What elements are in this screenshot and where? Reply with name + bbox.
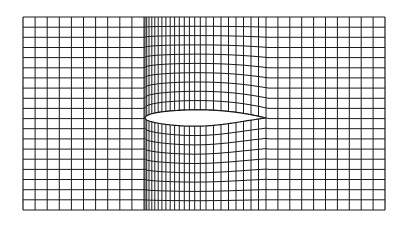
airfoil-outline — [145, 110, 266, 126]
mesh-row-line — [23, 149, 385, 155]
mesh-row-line — [23, 82, 385, 88]
mesh-row-line — [23, 101, 385, 109]
mesh-row-line — [23, 169, 385, 173]
mesh-row-line — [23, 54, 385, 58]
mesh-row-line — [23, 128, 385, 135]
mesh-row-line — [23, 73, 385, 78]
mesh-row-line — [23, 26, 385, 27]
mesh-row-line — [23, 179, 385, 182]
mesh-row-line — [23, 91, 385, 98]
mesh-row-line — [23, 159, 385, 164]
mesh-row-line — [23, 36, 385, 38]
mesh-row-line — [23, 200, 385, 201]
mesh-row-line — [23, 45, 385, 48]
airfoil-mesh — [0, 0, 412, 235]
mesh-row-line — [23, 190, 385, 192]
mesh-row-line — [23, 138, 385, 145]
mesh-row-line — [23, 63, 385, 67]
